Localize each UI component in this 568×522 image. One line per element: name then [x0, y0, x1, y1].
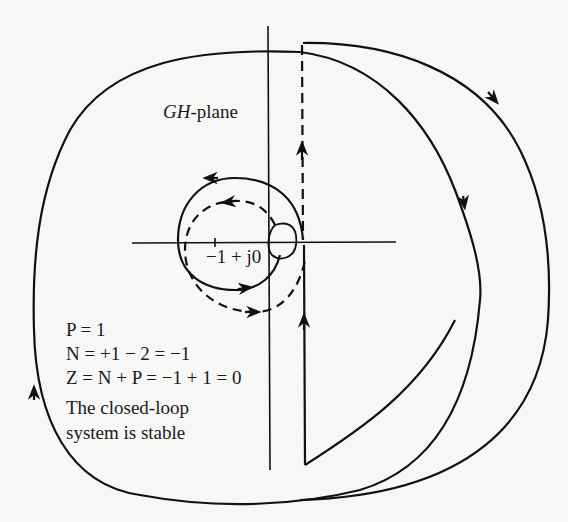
equations-block: P = 1 N = +1 − 2 = −1 Z = N + P = −1 + 1…: [66, 318, 241, 390]
conclusion-line-1: The closed-loop: [66, 395, 189, 420]
small-loop: [268, 224, 296, 259]
p-equation: P = 1: [66, 318, 241, 342]
real-axis: [132, 242, 396, 243]
outermost-arc: [300, 43, 549, 500]
plane-label-gh: GH: [163, 101, 190, 122]
encirclement-loop-solid: [178, 178, 303, 290]
stability-conclusion: The closed-loop system is stable: [66, 395, 189, 445]
vertical-contour-dashed: [302, 45, 303, 240]
z-equation: Z = N + P = −1 + 1 = 0: [66, 366, 241, 390]
vertical-contour-solid: [304, 245, 305, 465]
critical-point-label: −1 + j0: [206, 246, 261, 268]
plane-label: GH-plane: [163, 101, 238, 123]
n-equation: N = +1 − 2 = −1: [66, 342, 241, 366]
conclusion-line-2: system is stable: [66, 420, 189, 445]
plane-label-suffix: -plane: [190, 101, 237, 122]
